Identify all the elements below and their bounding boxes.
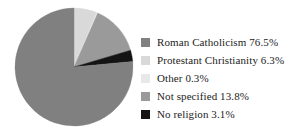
- pie-chart-svg: [14, 7, 134, 127]
- legend-item-not-specified: Not specified 13.8%: [141, 87, 293, 105]
- pie-chart-figure: Roman Catholicism 76.5% Protestant Chris…: [0, 0, 293, 135]
- legend-swatch-icon-roman-catholicism: [141, 38, 150, 47]
- legend-label-not-specified: Not specified 13.8%: [157, 90, 249, 102]
- legend-item-roman-catholicism: Roman Catholicism 76.5%: [141, 33, 293, 51]
- legend-item-protestant-christianity: Protestant Christianity 6.3%: [141, 51, 293, 69]
- legend-label-no-religion: No religion 3.1%: [157, 108, 235, 120]
- legend-item-other: Other 0.3%: [141, 69, 293, 87]
- legend-swatch-icon-no-religion: [141, 110, 150, 119]
- legend-swatch-icon-protestant-christianity: [141, 56, 150, 65]
- pie-chart: [14, 7, 134, 127]
- legend-label-protestant-christianity: Protestant Christianity 6.3%: [157, 54, 284, 66]
- pie-slices: [15, 8, 133, 126]
- chart-legend: Roman Catholicism 76.5% Protestant Chris…: [141, 33, 293, 123]
- legend-swatch-icon-other: [141, 74, 150, 83]
- legend-label-roman-catholicism: Roman Catholicism 76.5%: [157, 36, 278, 48]
- legend-swatch-icon-not-specified: [141, 92, 150, 101]
- legend-label-other: Other 0.3%: [157, 72, 209, 84]
- legend-item-no-religion: No religion 3.1%: [141, 105, 293, 123]
